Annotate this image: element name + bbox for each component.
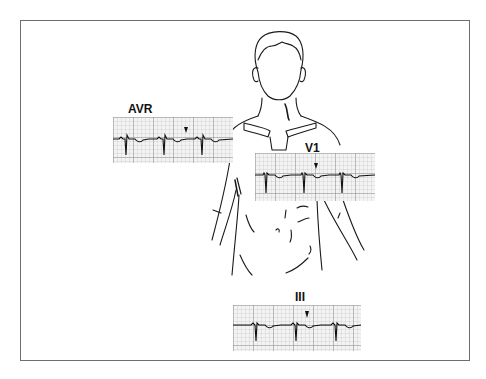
head-outline [255,32,303,100]
ecg-strip-avr [113,117,233,163]
lead-label-iii: III [295,290,305,304]
lead-label-avr: AVR [128,102,152,116]
ecg-strip-v1 [255,153,375,201]
ecg-strip-iii [233,305,361,351]
